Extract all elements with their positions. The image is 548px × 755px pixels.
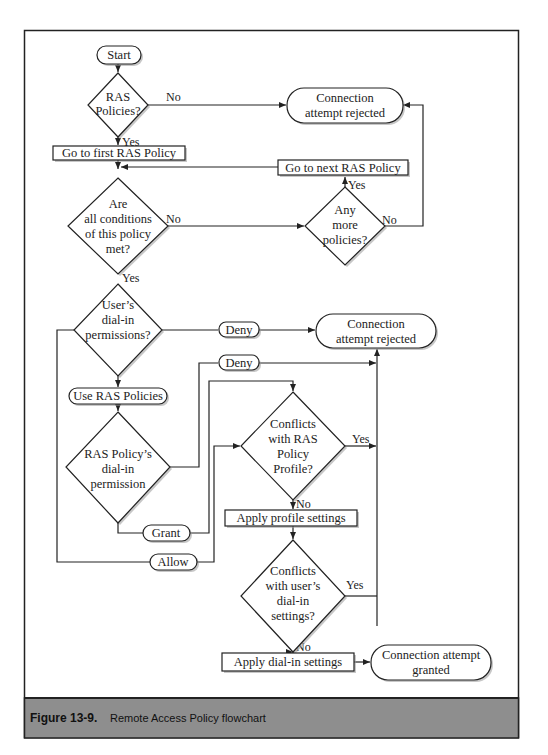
label-ras-no: No: [166, 90, 181, 104]
label-box-deny-2: Deny: [219, 355, 261, 372]
decision-text: permissions?: [85, 328, 151, 342]
label-cond-no: No: [166, 212, 181, 226]
process-go-first: Go to first RAS Policy: [53, 146, 187, 162]
terminal-text: Connection attempt: [382, 648, 481, 662]
decision-text: RAS: [106, 90, 130, 104]
decision-text: Are: [109, 197, 128, 211]
process-text: Apply profile settings: [236, 511, 345, 525]
node-start-text: Start: [107, 48, 131, 62]
terminal-granted: Connection attempt granted: [371, 645, 493, 682]
terminal-text: Connection: [316, 91, 374, 105]
decision-text: Any: [334, 203, 356, 217]
figure-caption: Remote Access Policy flowchart: [110, 712, 266, 724]
terminal-text: granted: [412, 663, 450, 677]
label-box-use-ras: Use RAS Policies: [69, 388, 169, 406]
terminal-rejected-mid: Connection attempt rejected: [316, 314, 438, 350]
decision-text: with RAS: [268, 432, 318, 446]
label-box-deny-1: Deny: [219, 322, 261, 339]
decision-text: dial-in: [102, 462, 135, 476]
process-go-next: Go to next RAS Policy: [278, 160, 410, 177]
flowchart-figure: Figure 13-9. Remote Access Policy flowch…: [0, 0, 548, 755]
figure-number: Figure 13-9.: [30, 711, 97, 725]
node-start: Start: [97, 46, 143, 66]
decision-text: dial-in: [102, 313, 135, 327]
decision-text: User’s: [102, 298, 135, 312]
decision-text: of this policy: [85, 227, 152, 241]
decision-text: permission: [91, 477, 147, 491]
label-profile-yes: Yes: [352, 432, 370, 446]
process-text: Go to first RAS Policy: [62, 146, 177, 160]
deny-text: Deny: [225, 323, 253, 337]
label-box-allow: Allow: [150, 554, 199, 572]
decision-text: settings?: [271, 609, 315, 623]
label-cond-yes: Yes: [122, 271, 140, 285]
decision-text: met?: [106, 242, 131, 256]
caption-bar: [25, 698, 519, 738]
decision-text: all conditions: [84, 212, 152, 226]
process-text: Apply dial-in settings: [234, 655, 342, 669]
decision-text: Policies?: [95, 104, 141, 118]
figure-frame: [25, 31, 519, 738]
decision-text: Conflicts: [270, 417, 316, 431]
use-ras-text: Use RAS Policies: [73, 389, 163, 403]
grant-text: Grant: [152, 526, 181, 540]
process-apply-profile: Apply profile settings: [225, 510, 359, 528]
deny-text: Deny: [225, 356, 253, 370]
decision-text: Profile?: [273, 462, 313, 476]
allow-text: Allow: [157, 555, 188, 569]
terminal-text: attempt rejected: [305, 106, 386, 120]
terminal-text: Connection: [347, 317, 405, 331]
process-apply-dialin: Apply dial-in settings: [222, 653, 356, 673]
label-more-yes: Yes: [348, 178, 366, 192]
label-profile-no: No: [296, 497, 311, 511]
terminal-rejected-top: Connection attempt rejected: [287, 88, 405, 125]
decision-text: RAS Policy’s: [84, 447, 152, 461]
decision-text: dial-in: [277, 594, 310, 608]
label-user-yes: Yes: [346, 578, 364, 592]
process-text: Go to next RAS Policy: [285, 161, 401, 175]
decision-text: policies?: [323, 233, 368, 247]
decision-text: Conflicts: [270, 564, 316, 578]
decision-text: Policy: [277, 447, 310, 461]
label-box-grant: Grant: [143, 525, 192, 543]
decision-text: more: [332, 218, 358, 232]
terminal-text: attempt rejected: [336, 332, 417, 346]
decision-text: with user’s: [266, 579, 321, 593]
